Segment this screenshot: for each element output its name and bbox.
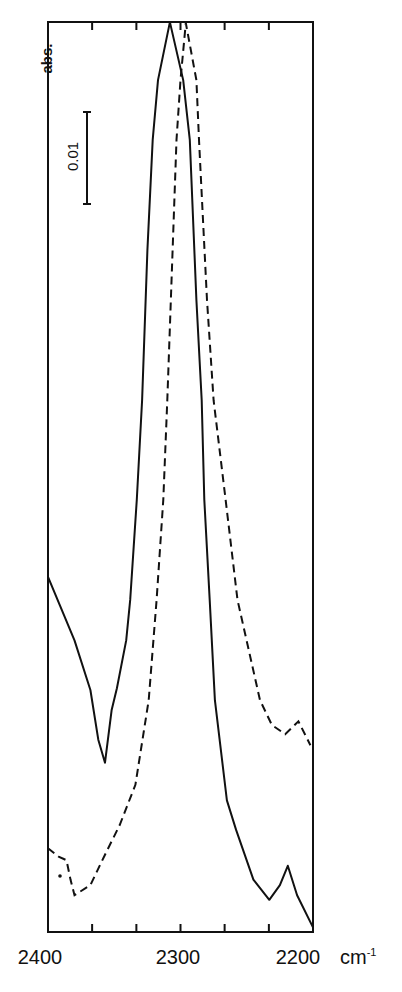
spectrum-chart: [0, 0, 402, 992]
y-axis-label: abs.: [38, 39, 55, 79]
scale-bar-label: 0.01: [64, 137, 81, 177]
x-axis-unit: cm-1: [340, 946, 376, 969]
x-tick-label-2200: 2200: [276, 946, 321, 969]
x-tick-label-2300: 2300: [156, 946, 201, 969]
x-tick-label-2400: 2400: [18, 946, 63, 969]
scale-bar: [83, 112, 91, 204]
stray-dot: [58, 874, 62, 878]
unit-exponent: -1: [367, 946, 377, 958]
axis-ticks: [92, 22, 269, 932]
unit-base: cm: [340, 946, 367, 968]
